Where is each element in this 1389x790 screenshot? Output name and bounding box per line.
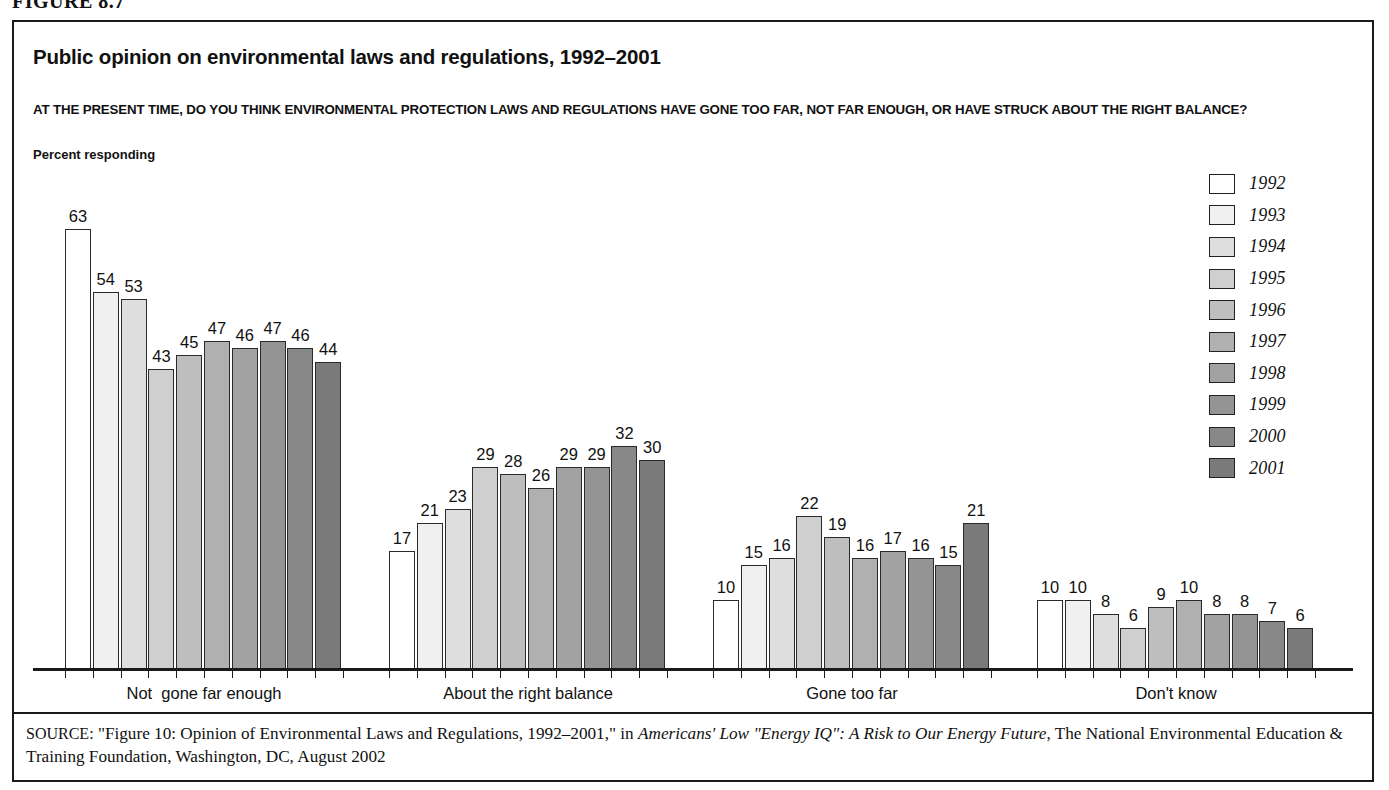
- bar-column: 54: [93, 180, 119, 670]
- axis-tick: [315, 670, 316, 678]
- bar-column: 16: [852, 180, 878, 670]
- bar-column: 30: [639, 180, 665, 670]
- bar-column: 63: [65, 180, 91, 670]
- bar: [556, 467, 582, 670]
- bar: [1287, 628, 1313, 670]
- bar-value-label: 30: [632, 438, 672, 457]
- category-label: Not gone far enough: [65, 684, 343, 703]
- bar-column: 19: [824, 180, 850, 670]
- axis-tick: [667, 670, 668, 678]
- bar-value-label: 6: [1280, 606, 1320, 625]
- bar: [769, 558, 795, 670]
- figure-number: FIGURE 8.7: [12, 0, 125, 12]
- bar-column: 45: [176, 180, 202, 670]
- bar-column: 15: [935, 180, 961, 670]
- bar-column: 16: [769, 180, 795, 670]
- bar-column: 46: [232, 180, 258, 670]
- bar-column: 29: [556, 180, 582, 670]
- figure-page: FIGURE 8.7 Public opinion on environment…: [0, 0, 1389, 790]
- bar: [1232, 614, 1258, 670]
- bar-value-label: 44: [308, 340, 348, 359]
- chart-plot-area: 6354534345474647464417212329282629293230…: [33, 180, 1345, 670]
- bar-column: 17: [389, 180, 415, 670]
- bar-column: 29: [472, 180, 498, 670]
- bar-column: 22: [796, 180, 822, 670]
- bar: [1204, 614, 1230, 670]
- bar: [204, 341, 230, 670]
- source-title: Americans' Low "Energy IQ": A Risk to Ou…: [638, 724, 1046, 743]
- bar-group: 1010869108876: [1037, 180, 1315, 670]
- bar: [260, 341, 286, 670]
- axis-tick: [232, 670, 233, 678]
- bar-column: 21: [963, 180, 989, 670]
- axis-tick: [741, 670, 742, 678]
- axis-tick: [472, 670, 473, 678]
- axis-tick: [852, 670, 853, 678]
- axis-tick: [389, 670, 390, 678]
- axis-tick: [1093, 670, 1094, 678]
- bar-column: 16: [908, 180, 934, 670]
- bar-column: 15: [741, 180, 767, 670]
- axis-tick: [556, 670, 557, 678]
- bar-value-label: 21: [956, 501, 996, 520]
- bar: [1148, 607, 1174, 670]
- bar-column: 6: [1287, 180, 1313, 670]
- axis-tick: [963, 670, 964, 678]
- bar: [713, 600, 739, 670]
- bar: [852, 558, 878, 670]
- axis-tick: [121, 670, 122, 678]
- bar: [445, 509, 471, 670]
- source-divider: [14, 712, 1372, 714]
- bar: [1120, 628, 1146, 670]
- bar: [796, 516, 822, 670]
- bar: [315, 362, 341, 670]
- bar-column: 46: [287, 180, 313, 670]
- axis-tick: [148, 670, 149, 678]
- bar: [908, 558, 934, 670]
- bar: [93, 292, 119, 670]
- source-label: SOURCE:: [26, 725, 94, 742]
- axis-tick: [1315, 670, 1316, 678]
- bar: [65, 229, 91, 670]
- bar: [472, 467, 498, 670]
- bar: [176, 355, 202, 670]
- bar-group: 63545343454746474644: [65, 180, 343, 670]
- bar-column: 17: [880, 180, 906, 670]
- bar: [611, 446, 637, 670]
- axis-tick: [908, 670, 909, 678]
- axis-tick: [445, 670, 446, 678]
- source-text-1: "Figure 10: Opinion of Environmental Law…: [94, 724, 638, 743]
- axis-tick: [796, 670, 797, 678]
- axis-tick: [204, 670, 205, 678]
- bar-column: 32: [611, 180, 637, 670]
- bar: [584, 467, 610, 670]
- bar-column: 10: [713, 180, 739, 670]
- axis-tick: [176, 670, 177, 678]
- category-label: Gone too far: [713, 684, 991, 703]
- bar-column: 7: [1259, 180, 1285, 670]
- bar: [935, 565, 961, 670]
- bar-column: 47: [204, 180, 230, 670]
- bar: [389, 551, 415, 670]
- bar-group: 17212329282629293230: [389, 180, 667, 670]
- bar: [528, 488, 554, 670]
- bar: [232, 348, 258, 670]
- bar: [417, 523, 443, 670]
- bar-column: 47: [260, 180, 286, 670]
- axis-tick: [1259, 670, 1260, 678]
- bar-column: 21: [417, 180, 443, 670]
- axis-tick: [528, 670, 529, 678]
- axis-tick: [1037, 670, 1038, 678]
- bar: [500, 474, 526, 670]
- bar: [639, 460, 665, 670]
- axis-tick: [991, 670, 992, 678]
- category-label: Don't know: [1037, 684, 1315, 703]
- category-label: About the right balance: [389, 684, 667, 703]
- axis-tick: [584, 670, 585, 678]
- axis-tick: [1065, 670, 1066, 678]
- axis-tick: [260, 670, 261, 678]
- axis-tick: [287, 670, 288, 678]
- axis-tick: [1232, 670, 1233, 678]
- axis-tick: [769, 670, 770, 678]
- bar: [741, 565, 767, 670]
